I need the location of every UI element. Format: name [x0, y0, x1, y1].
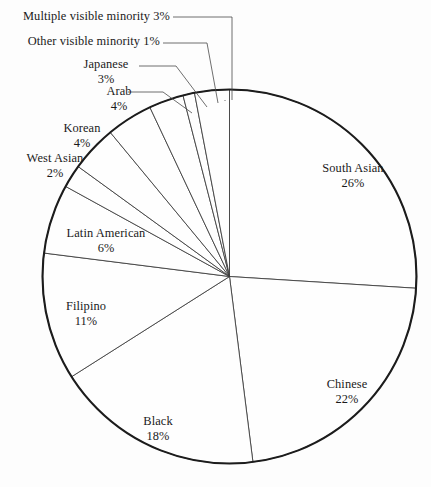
- label-filipino: Filipino 11%: [52, 299, 120, 328]
- label-south-asian: South Asian 26%: [312, 161, 394, 190]
- label-multiple-visible-minority: Multiple visible minority 3%: [4, 9, 170, 24]
- label-filipino-name: Filipino: [66, 299, 106, 313]
- pie-slice-chinese[interactable]: [230, 277, 417, 463]
- label-west-asian: West Asian 2%: [14, 151, 96, 180]
- label-arab-name: Arab: [106, 84, 131, 98]
- label-latin-american: Latin American 6%: [54, 226, 158, 255]
- label-south-asian-pct: 26%: [312, 176, 394, 191]
- label-chinese: Chinese 22%: [316, 377, 378, 406]
- pie-chart-page: Multiple visible minority 3% Other visib…: [0, 0, 431, 487]
- label-other-visible-minority-text: Other visible minority 1%: [28, 34, 160, 48]
- label-black-pct: 18%: [132, 429, 184, 444]
- label-chinese-pct: 22%: [316, 392, 378, 407]
- label-other-visible-minority: Other visible minority 1%: [4, 34, 160, 49]
- label-korean: Korean 4%: [52, 121, 112, 150]
- label-chinese-name: Chinese: [327, 377, 368, 391]
- label-filipino-pct: 11%: [52, 314, 120, 329]
- label-japanese-name: Japanese: [84, 57, 129, 71]
- label-japanese: Japanese 3%: [76, 57, 136, 86]
- label-west-asian-pct: 2%: [14, 166, 96, 181]
- leader-line-multiple-visible-minority: [173, 17, 232, 100]
- label-korean-name: Korean: [63, 121, 100, 135]
- label-korean-pct: 4%: [52, 136, 112, 151]
- label-south-asian-name: South Asian: [322, 161, 383, 175]
- label-multiple-visible-minority-text: Multiple visible minority 3%: [23, 9, 170, 23]
- label-latin-american-pct: 6%: [54, 241, 158, 256]
- label-latin-american-name: Latin American: [67, 226, 146, 240]
- label-arab: Arab 4%: [94, 84, 144, 113]
- label-west-asian-name: West Asian: [27, 151, 84, 165]
- label-arab-pct: 4%: [94, 99, 144, 114]
- label-black: Black 18%: [132, 414, 184, 443]
- label-black-name: Black: [143, 414, 172, 428]
